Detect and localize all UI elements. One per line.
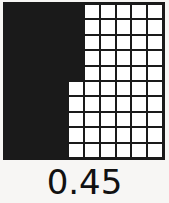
grid-cell [117, 51, 131, 64]
grid-cell [6, 20, 20, 33]
grid-cell [101, 5, 115, 18]
decimal-grid-figure: 0.45 [0, 0, 169, 203]
grid-cell [53, 5, 67, 18]
grid-cell [85, 113, 99, 126]
grid-cell [148, 51, 162, 64]
grid-cell [38, 51, 52, 64]
grid-cell [101, 113, 115, 126]
grid-cell [117, 144, 131, 157]
grid-cell [53, 97, 67, 110]
grid-cell [117, 128, 131, 141]
grid-cell [117, 20, 131, 33]
grid-cell [101, 128, 115, 141]
grid-cell [22, 20, 36, 33]
grid-cell [132, 20, 146, 33]
grid-cell [132, 113, 146, 126]
grid-cell [117, 97, 131, 110]
grid-cell [69, 67, 83, 80]
grid-cell [148, 5, 162, 18]
grid-cell [22, 51, 36, 64]
grid-cell [117, 36, 131, 49]
grid-cell [85, 128, 99, 141]
grid-cell [6, 97, 20, 110]
grid-cell [6, 51, 20, 64]
grid-cell [38, 36, 52, 49]
grid-cell [69, 113, 83, 126]
grid-cell [148, 113, 162, 126]
grid-cell [69, 36, 83, 49]
grid-cell [85, 82, 99, 95]
grid-cell [148, 20, 162, 33]
grid-cell [85, 67, 99, 80]
grid-cell [6, 144, 20, 157]
grid-cell [148, 82, 162, 95]
grid-cell [148, 97, 162, 110]
grid-cell [101, 36, 115, 49]
grid-cell [22, 5, 36, 18]
grid-cell [85, 36, 99, 49]
grid-cell [101, 67, 115, 80]
grid-cell [117, 113, 131, 126]
grid-cell [132, 82, 146, 95]
grid-cell [38, 97, 52, 110]
grid-cell [6, 36, 20, 49]
grid-cell [22, 97, 36, 110]
grid-cell [69, 128, 83, 141]
grid-cell [38, 5, 52, 18]
grid-cell [132, 5, 146, 18]
grid-cell [132, 67, 146, 80]
grid-cell [6, 113, 20, 126]
grid-cell [85, 20, 99, 33]
grid-cell [101, 51, 115, 64]
grid-cell [38, 128, 52, 141]
grid-cell [53, 113, 67, 126]
grid-cell [85, 97, 99, 110]
grid-cell [6, 5, 20, 18]
grid-cell [22, 113, 36, 126]
grid-cell [132, 128, 146, 141]
grid-cell [132, 36, 146, 49]
grid-cell [101, 82, 115, 95]
grid-cell [38, 20, 52, 33]
grid-cell [85, 51, 99, 64]
grid-cell [22, 36, 36, 49]
grid-cell [38, 67, 52, 80]
grid-cell [132, 97, 146, 110]
grid-cell [69, 5, 83, 18]
grid-cell [53, 144, 67, 157]
grid-cell [101, 144, 115, 157]
grid-cell [101, 20, 115, 33]
grid-cell [148, 128, 162, 141]
grid-cell [148, 144, 162, 157]
grid-cell [53, 67, 67, 80]
grid-cell [101, 97, 115, 110]
grid-cell [148, 36, 162, 49]
grid-cell [132, 51, 146, 64]
grid-cell [22, 128, 36, 141]
hundredths-grid [3, 2, 165, 160]
grid-cell [148, 67, 162, 80]
grid-cell [69, 144, 83, 157]
grid-cell [85, 144, 99, 157]
grid-cell [117, 5, 131, 18]
grid-cell [53, 51, 67, 64]
grid-cell [69, 97, 83, 110]
grid-cell [69, 82, 83, 95]
grid-cell [53, 36, 67, 49]
grid-cell [117, 67, 131, 80]
grid-cell [6, 82, 20, 95]
grid-cell [22, 82, 36, 95]
grid-cell [38, 144, 52, 157]
grid-cell [22, 67, 36, 80]
decimal-value-label: 0.45 [0, 162, 169, 203]
grid-cell [132, 144, 146, 157]
grid-cell [53, 82, 67, 95]
grid-cell [53, 128, 67, 141]
grid-cell [117, 82, 131, 95]
grid-cell [6, 128, 20, 141]
grid-cell [38, 113, 52, 126]
grid-cell [53, 20, 67, 33]
grid-cell [6, 67, 20, 80]
grid-cell [69, 51, 83, 64]
grid-cell [69, 20, 83, 33]
